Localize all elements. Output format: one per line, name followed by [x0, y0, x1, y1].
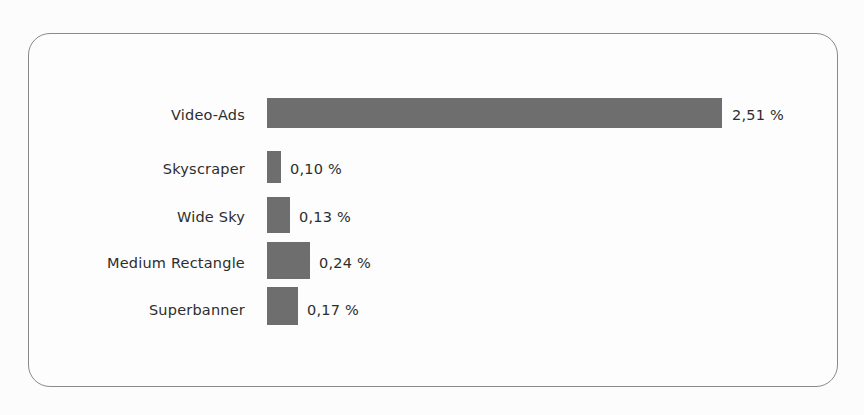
bar-row: Skyscraper 0,10 % [0, 146, 864, 188]
category-label: Superbanner [0, 303, 245, 318]
bar-texture [267, 242, 310, 279]
bar-value-label: 0,13 % [299, 210, 351, 225]
bar-value-label: 0,10 % [290, 162, 342, 177]
bar-segment[interactable] [267, 98, 722, 128]
category-label: Wide Sky [0, 210, 245, 225]
bar-row: Medium Rectangle 0,24 % [0, 237, 864, 279]
bar-value-label: 0,24 % [319, 256, 371, 271]
bar-chart-plot-area: Video-Ads 2,51 % Skyscraper 0,10 % Wide … [0, 0, 864, 415]
bar-segment[interactable] [267, 242, 310, 279]
bar-row: Superbanner 0,17 % [0, 283, 864, 325]
bar-texture [267, 151, 281, 183]
bar-value-label: 2,51 % [732, 108, 784, 123]
category-label: Medium Rectangle [0, 256, 245, 271]
bar-row: Wide Sky 0,13 % [0, 192, 864, 234]
bar-value-label: 0,17 % [307, 303, 359, 318]
bar-row: Video-Ads 2,51 % [0, 92, 864, 134]
chart-page: Video-Ads 2,51 % Skyscraper 0,10 % Wide … [0, 0, 864, 415]
category-label: Skyscraper [0, 162, 245, 177]
bar-texture [267, 98, 722, 128]
bar-texture [267, 197, 290, 233]
bar-segment[interactable] [267, 151, 281, 183]
bar-texture [267, 287, 298, 325]
category-label: Video-Ads [0, 108, 245, 123]
bar-segment[interactable] [267, 287, 298, 325]
bar-segment[interactable] [267, 197, 290, 233]
